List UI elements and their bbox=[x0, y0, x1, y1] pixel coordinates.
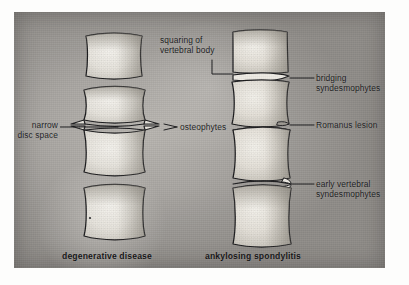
caption-ankylosing-spondylitis: ankylosing spondylitis bbox=[205, 251, 301, 261]
label-bridging-line2: syndesmophytes bbox=[316, 83, 380, 93]
label-osteophytes-line1: osteophytes bbox=[180, 122, 226, 132]
label-squaring: squaring of vertebral body bbox=[160, 35, 214, 55]
label-romanus: Romanus lesion bbox=[316, 120, 377, 130]
label-romanus-line1: Romanus lesion bbox=[316, 120, 377, 130]
caption-degenerative-disease: degenerative disease bbox=[62, 251, 152, 261]
label-early: early vertebral syndesmophytes bbox=[316, 179, 380, 199]
label-narrow-disc-line1: narrow bbox=[32, 120, 58, 130]
label-narrow-disc-line2: disc space bbox=[17, 130, 58, 140]
label-bridging-line1: bridging bbox=[316, 73, 347, 83]
label-early-line1: early vertebral bbox=[316, 179, 371, 189]
radiographic-illustration: squaring of vertebral body narrow disc s… bbox=[0, 0, 409, 285]
label-squaring-line1: squaring of bbox=[160, 35, 203, 45]
label-narrow-disc: narrow disc space bbox=[14, 120, 58, 140]
label-bridging: bridging syndesmophytes bbox=[316, 73, 380, 93]
label-osteophytes: osteophytes bbox=[180, 122, 226, 132]
label-squaring-line2: vertebral body bbox=[160, 45, 214, 55]
illustration-plate: squaring of vertebral body narrow disc s… bbox=[14, 12, 385, 268]
label-early-line2: syndesmophytes bbox=[316, 189, 380, 199]
